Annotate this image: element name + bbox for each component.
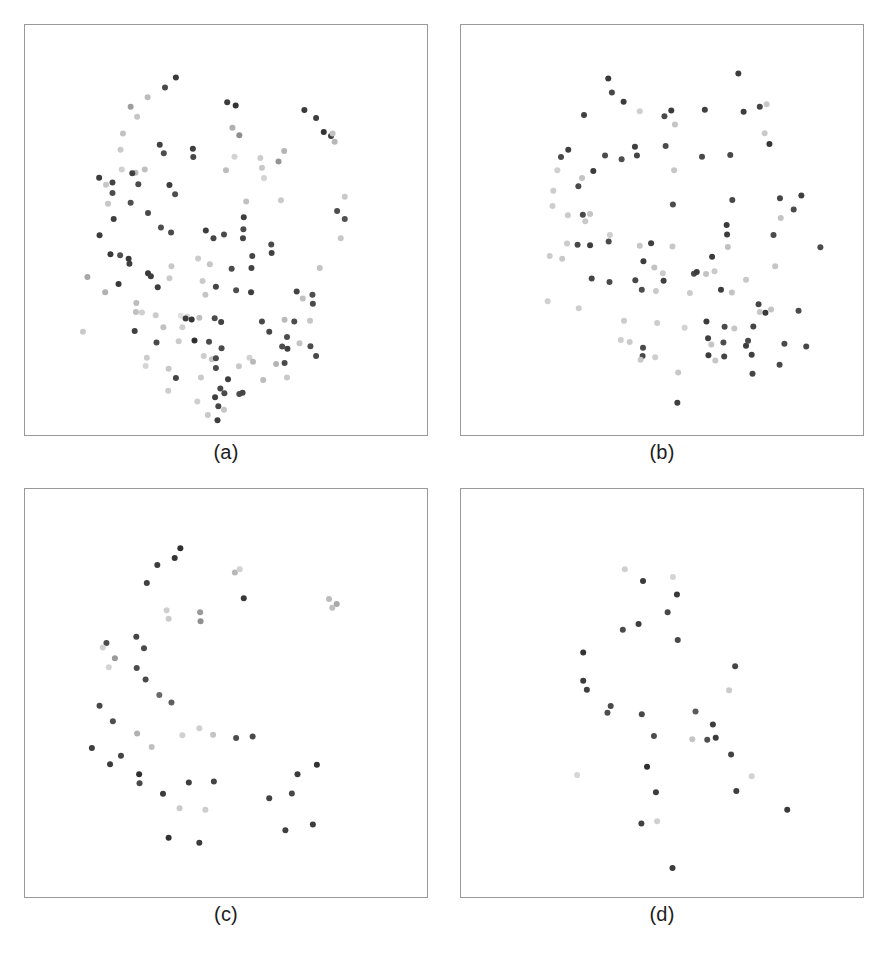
scatter-point — [179, 324, 185, 330]
scatter-point — [771, 232, 777, 238]
scatter-point — [732, 663, 738, 669]
panel-c — [24, 488, 428, 898]
scatter-point — [314, 762, 320, 768]
scatter-point — [118, 753, 124, 759]
scatter-point — [709, 254, 715, 260]
scatter-point — [143, 676, 149, 682]
scatter-point — [221, 407, 227, 413]
scatter-point — [168, 229, 174, 235]
scatter-point — [133, 300, 139, 306]
scatter-point — [313, 353, 319, 359]
scatter-point — [198, 618, 204, 624]
scatter-point — [134, 731, 140, 737]
panel-d — [460, 488, 864, 898]
scatter-point — [670, 574, 676, 580]
scatter-point — [550, 188, 556, 194]
scatter-point — [653, 288, 659, 294]
scatter-point — [750, 323, 756, 329]
scatter-point — [145, 210, 151, 216]
scatter-point — [266, 795, 272, 801]
scatter-point — [102, 289, 108, 295]
scatter-point — [733, 788, 739, 794]
scatter-point — [231, 154, 237, 160]
scatter-point — [749, 352, 755, 358]
scatter-point — [237, 566, 243, 572]
scatter-point — [674, 592, 680, 598]
scatter-point — [584, 687, 590, 693]
scatter-point — [213, 284, 219, 290]
scatter-point — [215, 417, 221, 423]
scatter-point — [240, 390, 246, 396]
scatter-point — [297, 340, 303, 346]
scatter-point — [670, 243, 676, 249]
scatter-point — [640, 258, 646, 264]
scatter-point — [329, 605, 335, 611]
scatter-point — [729, 290, 735, 296]
scatter-point — [196, 840, 202, 846]
panel-c-plot-area — [24, 488, 428, 898]
scatter-point — [661, 113, 667, 119]
scatter-point — [682, 325, 688, 331]
scatter-point — [143, 363, 149, 369]
scatter-point — [564, 241, 570, 247]
scatter-point — [177, 805, 183, 811]
scatter-point — [653, 789, 659, 795]
scatter-point — [791, 206, 797, 212]
scatter-point — [817, 244, 823, 250]
scatter-point — [257, 155, 263, 161]
scatter-point — [605, 75, 611, 81]
figure-container: (a) (b) (c) (d) — [0, 0, 882, 960]
scatter-point — [172, 191, 178, 197]
scatter-point — [660, 270, 666, 276]
scatter-point — [260, 377, 266, 383]
scatter-point — [133, 634, 139, 640]
scatter-point — [248, 265, 254, 271]
scatter-point — [173, 75, 179, 81]
scatter-point — [589, 276, 595, 282]
scatter-point — [205, 412, 211, 418]
scatter-point — [200, 278, 206, 284]
scatter-point — [781, 341, 787, 347]
scatter-point — [289, 790, 295, 796]
scatter-point — [250, 359, 256, 365]
scatter-point — [84, 274, 90, 280]
scatter-point — [241, 214, 247, 220]
scatter-point — [768, 307, 774, 313]
scatter-point — [190, 154, 196, 160]
scatter-point — [651, 264, 657, 270]
scatter-point — [777, 362, 783, 368]
scatter-point — [166, 275, 172, 281]
scatter-point — [721, 353, 727, 359]
scatter-point — [762, 130, 768, 136]
scatter-point — [757, 104, 763, 110]
scatter-point — [155, 284, 161, 290]
scatter-point — [558, 154, 564, 160]
panel-d-label: (d) — [460, 903, 864, 926]
scatter-point — [284, 346, 290, 352]
scatter-point — [749, 371, 755, 377]
scatter-point — [273, 361, 279, 367]
scatter-point — [279, 344, 285, 350]
scatter-point — [229, 125, 235, 131]
scatter-point — [134, 665, 140, 671]
scatter-point — [712, 268, 718, 274]
panel-b-scatter — [460, 24, 864, 436]
scatter-point — [661, 278, 667, 284]
scatter-point — [212, 394, 218, 400]
scatter-point — [206, 339, 212, 345]
scatter-point — [796, 308, 802, 314]
scatter-point — [632, 277, 638, 283]
scatter-point — [310, 822, 316, 828]
scatter-point — [128, 200, 134, 206]
scatter-point — [651, 733, 657, 739]
scatter-point — [580, 649, 586, 655]
scatter-point — [718, 287, 724, 293]
scatter-point — [627, 339, 633, 345]
scatter-point — [587, 211, 593, 217]
scatter-point — [309, 292, 315, 298]
scatter-point — [111, 216, 117, 222]
scatter-point — [158, 225, 164, 231]
scatter-point — [332, 139, 338, 145]
scatter-point — [554, 167, 560, 173]
scatter-point — [132, 328, 138, 334]
